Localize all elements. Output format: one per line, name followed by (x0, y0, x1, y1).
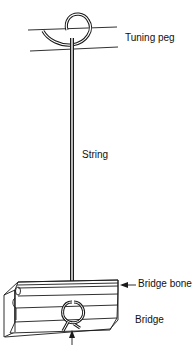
bridge-block (4, 280, 118, 337)
string (70, 38, 74, 310)
string-label: String (82, 150, 108, 160)
bridge-label: Bridge (135, 315, 164, 325)
tuning-peg-label: Tuning peg (125, 33, 175, 43)
bridge-bone-label: Bridge bone (138, 279, 192, 289)
tuning-peg-top-edge (28, 27, 117, 30)
bridge-bone-arrow (120, 282, 136, 288)
diagram-canvas (0, 0, 195, 355)
